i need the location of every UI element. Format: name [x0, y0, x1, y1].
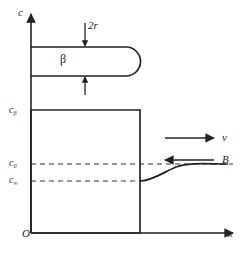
beta-phase-label: β — [60, 53, 66, 65]
magnetic-field-label: B — [222, 154, 229, 165]
c-infinity-level-label: c∞ — [9, 175, 18, 186]
c-infinity-subscript: ∞ — [13, 179, 17, 186]
y-axis-label: c — [18, 7, 23, 18]
beta-phase-capsule — [31, 47, 141, 76]
origin-label: O — [22, 228, 30, 239]
thickness-label: 2r — [88, 20, 98, 31]
c-beta-level-label: cβ — [9, 105, 17, 116]
c-zero-subscript: 0 — [13, 162, 16, 169]
x-axis-label: x — [228, 228, 233, 239]
concentration-profile-figure: c 2r β cβ c0 c∞ v B O x — [0, 0, 250, 257]
c-beta-subscript: β — [13, 109, 16, 116]
beta-concentration-block — [31, 110, 140, 233]
velocity-label: v — [222, 132, 227, 143]
concentration-profile-curve — [140, 164, 228, 181]
figure-canvas — [0, 0, 250, 257]
c-zero-level-label: c0 — [9, 158, 17, 169]
